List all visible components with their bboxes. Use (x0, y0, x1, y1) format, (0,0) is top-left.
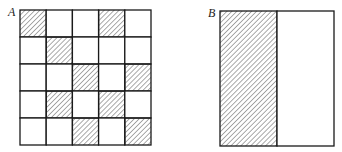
empty-cell (20, 118, 46, 145)
empty-cell (99, 118, 125, 145)
empty-cell (125, 10, 151, 37)
empty-cell (72, 10, 98, 37)
figures-canvas (0, 0, 342, 152)
shaded-cell (46, 37, 72, 64)
empty-cell (20, 37, 46, 64)
shaded-cell (72, 118, 98, 145)
shaded-cell (125, 118, 151, 145)
empty-cell (46, 64, 72, 91)
empty-cell (99, 37, 125, 64)
shaded-cell (20, 10, 46, 37)
empty-cell (20, 64, 46, 91)
shaded-cell (99, 91, 125, 118)
shaded-cell (72, 64, 98, 91)
shaded-cell (99, 10, 125, 37)
empty-cell (99, 64, 125, 91)
shaded-cell (125, 64, 151, 91)
shaded-part (220, 11, 277, 146)
figure-b-rectangle (220, 11, 334, 146)
empty-cell (72, 91, 98, 118)
figure-a-grid (20, 10, 151, 145)
empty-cell (125, 91, 151, 118)
empty-cell (72, 37, 98, 64)
empty-cell (125, 37, 151, 64)
empty-cell (20, 91, 46, 118)
empty-cell (46, 10, 72, 37)
empty-cell (46, 118, 72, 145)
shaded-cell (46, 91, 72, 118)
empty-part (277, 11, 334, 146)
